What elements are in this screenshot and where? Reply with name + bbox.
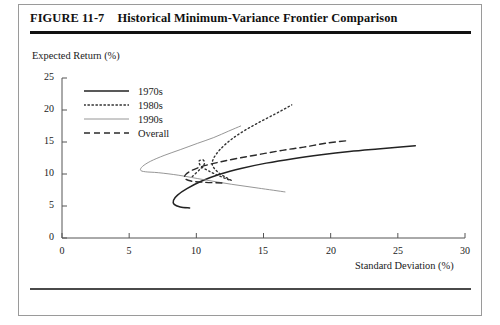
legend-item-1970s: 1970s bbox=[84, 84, 169, 98]
chart-plot-area bbox=[0, 0, 500, 325]
y-tick-label-20: 20 bbox=[32, 103, 54, 114]
legend-label-1970s: 1970s bbox=[138, 86, 163, 97]
x-tick-label-0: 0 bbox=[51, 245, 73, 256]
series-line-overall bbox=[184, 141, 346, 183]
legend-item-overall: Overall bbox=[84, 126, 169, 140]
legend-label-overall: Overall bbox=[138, 128, 169, 139]
legend-item-1990s: 1990s bbox=[84, 112, 169, 126]
y-tick-label-0: 0 bbox=[32, 231, 54, 242]
series-line-1980s bbox=[192, 105, 291, 181]
legend-swatch-thin-icon bbox=[84, 114, 129, 124]
legend-swatch-dashed-icon bbox=[84, 128, 129, 138]
chart-legend: 1970s 1980s 1990s Overall bbox=[84, 84, 169, 140]
series-line-1970s bbox=[173, 146, 415, 208]
x-tick-label-10: 10 bbox=[185, 245, 207, 256]
x-axis-title: Standard Deviation (%) bbox=[355, 260, 454, 271]
legend-label-1990s: 1990s bbox=[138, 114, 163, 125]
legend-item-1980s: 1980s bbox=[84, 98, 169, 112]
legend-swatch-dotted-icon bbox=[84, 100, 129, 110]
figure-page: FIGURE 11-7Historical Minimum-Variance F… bbox=[0, 0, 500, 325]
x-tick-label-20: 20 bbox=[320, 245, 342, 256]
x-tick-label-5: 5 bbox=[118, 245, 140, 256]
x-tick-label-25: 25 bbox=[387, 245, 409, 256]
y-tick-label-10: 10 bbox=[32, 167, 54, 178]
y-tick-label-15: 15 bbox=[32, 135, 54, 146]
y-tick-label-5: 5 bbox=[32, 199, 54, 210]
x-tick-label-15: 15 bbox=[252, 245, 274, 256]
legend-swatch-solid-icon bbox=[84, 86, 129, 96]
chart-svg bbox=[0, 0, 500, 325]
y-axis-title: Expected Return (%) bbox=[32, 50, 120, 61]
y-tick-label-25: 25 bbox=[32, 71, 54, 82]
legend-label-1980s: 1980s bbox=[138, 100, 163, 111]
x-tick-label-30: 30 bbox=[454, 245, 476, 256]
